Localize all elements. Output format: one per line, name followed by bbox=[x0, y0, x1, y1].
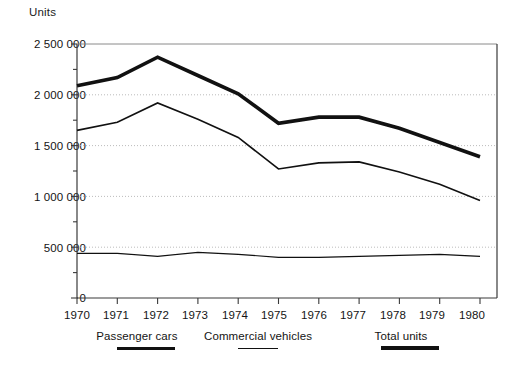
plot-area bbox=[0, 0, 517, 367]
series-lines bbox=[77, 57, 480, 257]
gridlines bbox=[77, 95, 497, 247]
plot-frame bbox=[77, 44, 497, 298]
x-ticks bbox=[77, 298, 480, 304]
chart-figure: Units 2 500 000 2 000 000 1 500 000 1 00… bbox=[0, 0, 517, 367]
